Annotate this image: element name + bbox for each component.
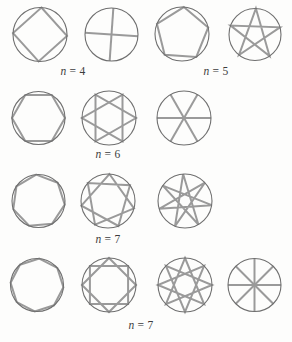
n8-polygon-circle	[11, 259, 64, 312]
group-label-n7: n = 7	[95, 233, 120, 245]
figure-n5-polygon	[155, 7, 209, 61]
group-label-n5: n = 5	[203, 65, 228, 77]
group-label-n6: n = 6	[95, 148, 120, 160]
label-value: = 4	[66, 65, 85, 77]
label-value: = 6	[101, 148, 120, 160]
figure-n4-polygon	[13, 8, 67, 62]
n4-polygon-circle	[13, 8, 67, 62]
n6-polygon-shape	[12, 95, 65, 141]
figure-n6-star-3	[157, 91, 211, 145]
group-label-n8-row: n = 7	[128, 319, 153, 331]
group-label-n4: n = 4	[60, 65, 85, 77]
figure-n8-star-2	[82, 258, 136, 312]
figure-n7-polygon	[12, 175, 65, 228]
figure-n7-star-2	[81, 174, 135, 228]
figure-n8-star-4	[228, 259, 281, 312]
figure-n7-star-3	[158, 174, 212, 228]
figure-n6-star-2	[82, 91, 136, 145]
label-value: = 7	[134, 319, 153, 331]
label-value: = 5	[209, 65, 228, 77]
figure-n8-polygon	[11, 259, 64, 312]
inscribed-polygons-figure: n = 4 n = 5 n = 6 n = 7 n = 7	[0, 0, 292, 342]
figure-n5-star-2	[229, 9, 281, 61]
n5-polygon-circle	[155, 7, 209, 61]
n5-star-2-circle	[229, 9, 281, 61]
n6-star-2-circle	[82, 91, 136, 145]
figure-canvas	[0, 0, 292, 342]
figure-n8-star-3	[158, 258, 212, 312]
n8-star-3-circle	[158, 258, 212, 312]
figure-n6-polygon	[12, 92, 65, 145]
figure-n4-star-2	[85, 8, 138, 61]
n7-polygon-circle	[12, 175, 65, 228]
n6-polygon-circle	[12, 92, 65, 145]
label-value: = 7	[101, 233, 120, 245]
